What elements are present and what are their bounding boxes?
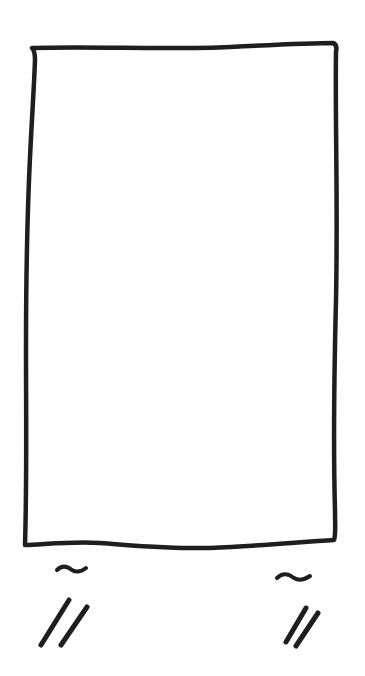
left-tilde-mark [57,567,86,572]
right-tilde-mark [277,574,310,580]
hand-drawn-sketch [0,0,365,676]
left-double-slash-mark-2 [61,607,87,645]
sketch-canvas [0,0,365,676]
rectangle-outline [25,43,337,548]
